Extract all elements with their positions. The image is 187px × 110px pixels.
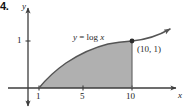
shaded-area-under-curve: [39, 41, 132, 88]
y-axis-label: y: [22, 2, 26, 11]
curve-equation-x: x: [100, 32, 104, 42]
x-axis-label: x: [178, 91, 182, 100]
curve-equation-label: y = log x: [73, 33, 104, 42]
x-tick-label-1: 1: [36, 92, 41, 101]
x-tick-label-10: 10: [126, 92, 135, 101]
curve-equation-operator: = log: [77, 32, 100, 42]
log-curve-figure: 4. y x y = log x (10, 1) 1 5 10 1: [0, 0, 187, 110]
y-tick-label-1: 1: [17, 36, 22, 45]
problem-number: 4.: [0, 1, 9, 12]
x-tick-label-5: 5: [80, 92, 85, 101]
figure-canvas: [0, 0, 187, 110]
marked-point-10-1: [130, 39, 135, 44]
point-coordinate-label: (10, 1): [137, 45, 161, 54]
